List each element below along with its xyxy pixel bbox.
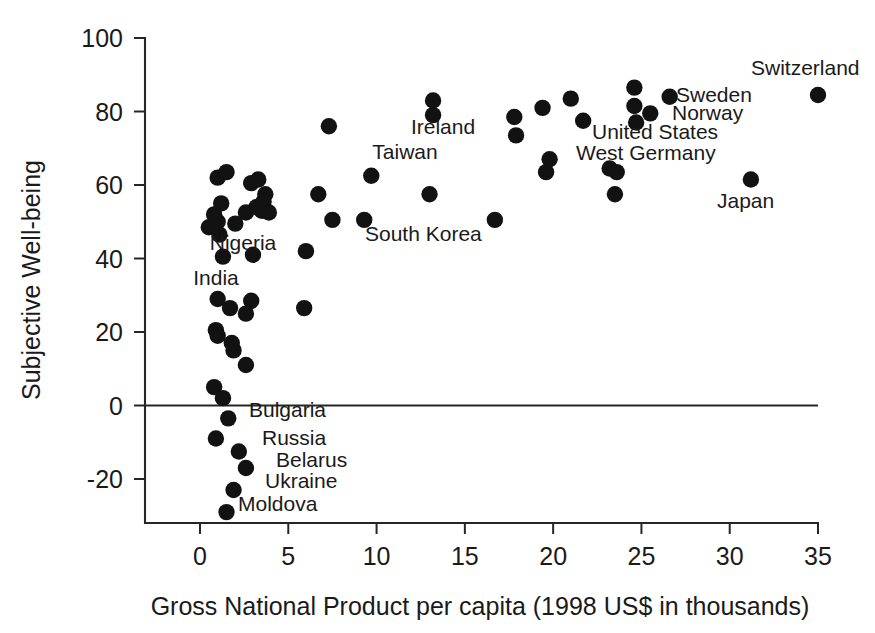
data-point — [218, 164, 234, 180]
point-label-sweden: Sweden — [676, 83, 752, 106]
data-point-russia — [231, 443, 247, 459]
point-label-switzerland: Switzerland — [751, 56, 860, 79]
data-point-ireland — [425, 92, 441, 108]
data-point — [222, 300, 238, 316]
y-axis-tick-label: -20 — [87, 465, 123, 493]
data-point — [575, 112, 591, 128]
data-point — [487, 212, 503, 228]
data-point — [296, 300, 312, 316]
point-label-belarus: Belarus — [276, 448, 347, 471]
data-point — [238, 305, 254, 321]
x-axis-tick-label: 5 — [281, 542, 295, 570]
point-label-bulgaria: Bulgaria — [249, 398, 326, 421]
data-point — [607, 186, 623, 202]
data-point — [421, 186, 437, 202]
data-point — [298, 243, 314, 259]
y-axis-tick-label: 100 — [81, 24, 123, 52]
data-point-belarus — [238, 460, 254, 476]
point-label-ireland: Ireland — [411, 115, 475, 138]
data-point — [324, 212, 340, 228]
point-label-west-germany: West Germany — [576, 141, 716, 164]
data-point — [321, 118, 337, 134]
scatter-plot-figure: -2002040608010005101520253035 NigeriaInd… — [0, 0, 875, 633]
y-axis-title: Subjective Well-being — [17, 160, 45, 400]
x-axis-tick-label: 15 — [451, 542, 479, 570]
data-point-taiwan — [363, 168, 379, 184]
data-point — [250, 171, 266, 187]
data-point — [209, 327, 225, 343]
x-axis-tick-label: 35 — [804, 542, 832, 570]
data-point — [626, 79, 642, 95]
point-labels-group: NigeriaIndiaBulgariaRussiaBelarusUkraine… — [193, 56, 859, 515]
data-point-switzerland — [810, 87, 826, 103]
data-point-bulgaria — [220, 410, 236, 426]
x-axis-tick-label: 0 — [193, 542, 207, 570]
point-label-japan: Japan — [717, 189, 774, 212]
point-label-russia: Russia — [262, 426, 327, 449]
data-point — [213, 195, 229, 211]
y-axis-tick-label: 20 — [95, 318, 123, 346]
data-point — [238, 357, 254, 373]
data-point — [534, 100, 550, 116]
point-label-moldova: Moldova — [238, 492, 318, 515]
data-point — [541, 151, 557, 167]
data-point — [208, 430, 224, 446]
data-point-moldova — [218, 504, 234, 520]
x-axis-tick-label: 10 — [363, 542, 391, 570]
data-point — [261, 204, 277, 220]
y-axis-tick-label: 60 — [95, 171, 123, 199]
data-point — [508, 127, 524, 143]
x-axis-tick-label: 25 — [628, 542, 656, 570]
x-axis-title: Gross National Product per capita (1998 … — [151, 592, 810, 620]
data-point — [563, 90, 579, 106]
y-axis-tick-label: 0 — [109, 392, 123, 420]
point-label-nigeria: Nigeria — [210, 231, 277, 254]
data-point — [609, 164, 625, 180]
x-axis-tick-label: 30 — [716, 542, 744, 570]
data-point — [626, 98, 642, 114]
data-point — [506, 109, 522, 125]
data-point — [215, 390, 231, 406]
plot-canvas: -2002040608010005101520253035 NigeriaInd… — [0, 0, 875, 633]
data-point-japan — [743, 171, 759, 187]
y-axis-tick-label: 40 — [95, 245, 123, 273]
x-axis-tick-label: 20 — [539, 542, 567, 570]
point-label-south-korea: South Korea — [365, 222, 482, 245]
data-point — [310, 186, 326, 202]
y-axis-tick-label: 80 — [95, 98, 123, 126]
point-label-ukraine: Ukraine — [265, 469, 337, 492]
data-point — [225, 342, 241, 358]
point-label-india: India — [193, 266, 239, 289]
point-label-taiwan: Taiwan — [372, 140, 437, 163]
